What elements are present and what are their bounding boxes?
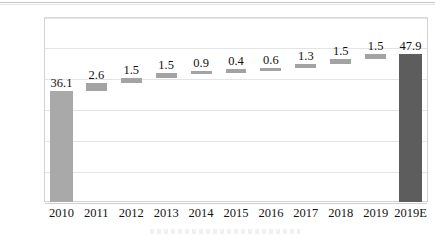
bar-2019 (365, 54, 386, 59)
value-label-2011: 2.6 (79, 69, 114, 82)
value-label-2019E: 47.9 (393, 40, 428, 53)
x-tick-label-2018: 2018 (323, 207, 358, 220)
bar-2016 (260, 68, 281, 72)
x-tick-label-2013: 2013 (149, 207, 184, 220)
value-label-2010: 36.1 (44, 77, 79, 90)
value-label-2016: 0.6 (253, 54, 288, 67)
bar-2019E (399, 54, 422, 202)
value-label-2013: 1.5 (149, 59, 184, 72)
bar-2013 (156, 73, 177, 78)
value-label-2019: 1.5 (358, 40, 393, 53)
bar-2018 (330, 59, 351, 64)
bar-2012 (121, 78, 142, 83)
top-rule-line-secondary (0, 4, 435, 5)
value-label-2014: 0.9 (184, 57, 219, 70)
bar-2011 (86, 83, 107, 91)
x-tick-label-2017: 2017 (288, 207, 323, 220)
bar-2010 (50, 91, 73, 202)
x-tick-label-2019E: 2019E (393, 207, 428, 220)
x-tick-label-2014: 2014 (184, 207, 219, 220)
gridline-60 (45, 18, 427, 19)
x-tick-label-2019: 2019 (358, 207, 393, 220)
x-tick-label-2015: 2015 (219, 207, 254, 220)
x-tick-label-2016: 2016 (253, 207, 288, 220)
bar-2017 (295, 64, 316, 68)
value-label-2017: 1.3 (288, 50, 323, 63)
value-label-2015: 0.4 (219, 55, 254, 68)
value-label-2012: 1.5 (114, 64, 149, 77)
x-tick-label-2011: 2011 (79, 207, 114, 220)
caption-sliver (150, 229, 300, 234)
gridline-30 (45, 110, 427, 111)
gridline-20 (45, 141, 427, 142)
bar-2014 (191, 71, 212, 75)
value-label-2018: 1.5 (323, 45, 358, 58)
x-tick-label-2012: 2012 (114, 207, 149, 220)
top-rule-line (0, 2, 435, 3)
gridline-0 (45, 203, 427, 204)
waterfall-chart-figure: 0102030405060 36.12.61.51.50.90.40.61.31… (0, 0, 435, 236)
bar-2015 (226, 69, 247, 73)
gridline-10 (45, 172, 427, 173)
x-tick-label-2010: 2010 (44, 207, 79, 220)
